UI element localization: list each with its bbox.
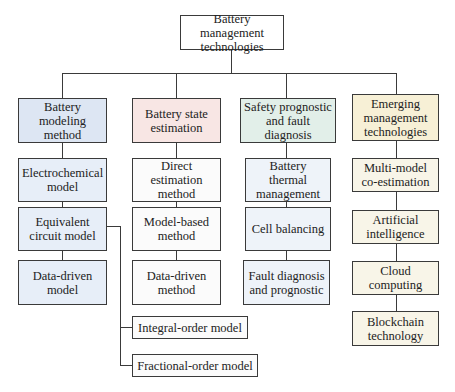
- node-model-based-method: Model-based method: [132, 207, 221, 251]
- node-direct-estimation-method: Direct estimation method: [132, 158, 221, 202]
- node-label: Fault diagnosis and prognostic: [247, 269, 326, 297]
- node-label: Direct estimation method: [136, 159, 217, 201]
- connector-main-horizontal: [62, 73, 397, 74]
- root-node: Battery management technologies: [180, 15, 284, 50]
- category-emerging-technologies: Emerging management technologies: [352, 94, 439, 141]
- connector-col4-top: [396, 73, 397, 94]
- node-label: Integral-order model: [138, 321, 242, 335]
- node-label: Model-based method: [136, 215, 217, 243]
- connector-integral: [120, 327, 132, 328]
- root-label: Battery management technologies: [184, 12, 280, 54]
- connector-fractional: [120, 365, 132, 366]
- node-integral-order-model: Integral-order model: [132, 316, 248, 339]
- node-label: Electrochemical model: [22, 166, 103, 194]
- node-label: Equivalent circuit model: [22, 215, 103, 243]
- node-label: Battery modeling method: [22, 100, 103, 142]
- node-label: Safety prognostic and fault diagnosis: [244, 100, 332, 142]
- node-label: Battery state estimation: [136, 107, 217, 135]
- node-blockchain-technology: Blockchain technology: [352, 311, 439, 346]
- node-artificial-intelligence: Artificial intelligence: [352, 210, 439, 244]
- category-battery-state-estimation: Battery state estimation: [132, 98, 221, 143]
- connector-col2-top: [176, 73, 177, 98]
- node-label: Cloud computing: [356, 264, 435, 292]
- node-multi-model-co-estimation: Multi-model co-estimation: [352, 158, 439, 192]
- connector-ecm-branch: [120, 226, 121, 366]
- node-battery-thermal-management: Battery thermal management: [245, 158, 331, 202]
- node-label: Cell balancing: [252, 222, 325, 236]
- node-label: Data-driven model: [22, 269, 103, 297]
- node-fault-diagnosis: Fault diagnosis and prognostic: [243, 260, 330, 305]
- connector-ecm-right: [107, 226, 120, 227]
- node-label: Battery thermal management: [249, 159, 327, 201]
- category-battery-modeling: Battery modeling method: [18, 98, 107, 143]
- node-label: Multi-model co-estimation: [356, 161, 435, 189]
- node-fractional-order-model: Fractional-order model: [132, 354, 258, 377]
- connector-col3-top: [286, 73, 287, 98]
- node-label: Blockchain technology: [356, 315, 435, 343]
- connector-col1-top: [62, 73, 63, 98]
- category-safety-prognostic: Safety prognostic and fault diagnosis: [240, 98, 336, 143]
- node-cell-balancing: Cell balancing: [245, 207, 331, 251]
- node-equivalent-circuit-model: Equivalent circuit model: [18, 207, 107, 251]
- node-label: Data-driven method: [136, 269, 217, 297]
- node-label: Emerging management technologies: [356, 97, 435, 139]
- node-label: Fractional-order model: [137, 359, 253, 373]
- node-data-driven-method: Data-driven method: [132, 260, 221, 305]
- node-electrochemical-model: Electrochemical model: [18, 158, 107, 202]
- node-label: Artificial intelligence: [356, 213, 435, 241]
- node-cloud-computing: Cloud computing: [352, 261, 439, 295]
- node-data-driven-model: Data-driven model: [18, 260, 107, 305]
